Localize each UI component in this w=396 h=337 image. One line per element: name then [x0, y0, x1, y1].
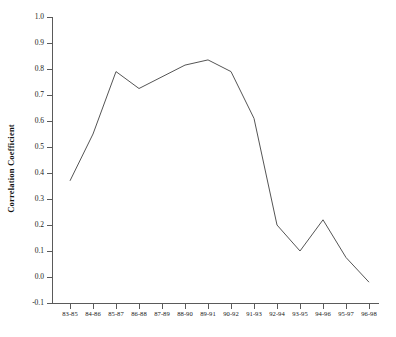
x-tick-mark — [277, 304, 278, 309]
x-tick-mark — [254, 304, 255, 309]
y-tick-label: 0.8 — [4, 65, 44, 73]
y-tick-label: 0.5 — [4, 143, 44, 151]
y-tick-mark — [47, 303, 52, 304]
chart-figure: Correlation Coefficient 1.00.90.80.70.60… — [0, 0, 396, 337]
x-axis-line — [52, 303, 379, 304]
x-tick-mark — [208, 304, 209, 309]
x-tick-mark — [162, 304, 163, 309]
x-tick-label: 96-98 — [349, 311, 389, 318]
y-tick-label: 0.4 — [4, 169, 44, 177]
y-tick-label: 0.6 — [4, 117, 44, 125]
line-series-svg — [52, 17, 379, 303]
plot-area — [52, 17, 379, 303]
x-tick-mark — [185, 304, 186, 309]
y-tick-label: 0.0 — [4, 273, 44, 281]
x-tick-mark — [231, 304, 232, 309]
x-tick-mark — [93, 304, 94, 309]
y-tick-label: 0.3 — [4, 195, 44, 203]
y-tick-label: 0.9 — [4, 39, 44, 47]
x-tick-mark — [369, 304, 370, 309]
x-tick-mark — [323, 304, 324, 309]
data-line-correlation-coefficient — [70, 60, 369, 282]
y-tick-label: 0.1 — [4, 247, 44, 255]
x-tick-mark — [116, 304, 117, 309]
x-tick-mark — [139, 304, 140, 309]
y-tick-label: 0.2 — [4, 221, 44, 229]
x-tick-mark — [300, 304, 301, 309]
x-tick-mark — [346, 304, 347, 309]
y-tick-label: 1.0 — [4, 13, 44, 21]
x-tick-mark — [70, 304, 71, 309]
y-tick-label: 0.7 — [4, 91, 44, 99]
y-tick-label: -0.1 — [4, 299, 44, 307]
